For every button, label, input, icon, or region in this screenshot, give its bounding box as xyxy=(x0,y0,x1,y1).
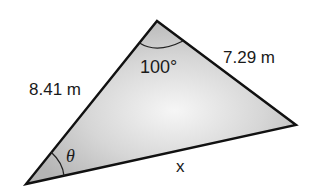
left-side-label: 8.41 m xyxy=(29,80,81,99)
right-side-label: 7.29 m xyxy=(223,48,275,67)
triangle-diagram: 8.41 m 7.29 m 100° x θ xyxy=(0,0,313,191)
left-angle-label: θ xyxy=(66,146,75,166)
bottom-side-label: x xyxy=(176,157,185,176)
top-angle-label: 100° xyxy=(140,57,177,77)
